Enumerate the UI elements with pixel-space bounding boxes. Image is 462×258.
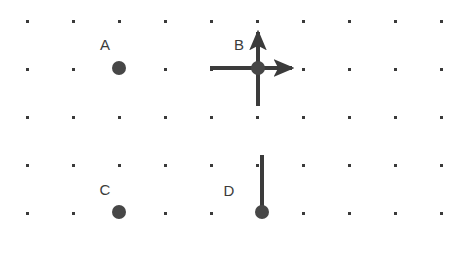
grid-dot <box>72 116 75 119</box>
point-label-d: D <box>224 182 235 199</box>
grid-dot <box>164 116 167 119</box>
grid-dot <box>164 20 167 23</box>
point-marker-b <box>251 61 265 75</box>
grid-dot <box>26 212 29 215</box>
point-marker-c <box>112 205 126 219</box>
point-marker-a <box>112 61 126 75</box>
point-label-a: A <box>100 36 110 53</box>
grid-dot <box>348 212 351 215</box>
grid-dot <box>72 164 75 167</box>
grid-dot <box>118 116 121 119</box>
grid-dot <box>256 116 259 119</box>
vector-diagram: ABCD <box>0 0 462 258</box>
grid-dot <box>118 164 121 167</box>
grid-dot <box>302 164 305 167</box>
point-marker-layer <box>112 61 269 219</box>
grid-dot <box>440 164 443 167</box>
grid-dot <box>440 212 443 215</box>
grid-dot <box>394 212 397 215</box>
grid-dot <box>72 212 75 215</box>
grid-dot <box>164 164 167 167</box>
point-label-b: B <box>234 36 244 53</box>
diagram-canvas: ABCD <box>0 0 462 258</box>
grid-dot <box>118 20 121 23</box>
grid-dot <box>440 116 443 119</box>
grid-dot <box>394 116 397 119</box>
grid-dot <box>164 212 167 215</box>
grid-dot <box>348 68 351 71</box>
point-marker-d <box>255 205 269 219</box>
grid-dot <box>26 20 29 23</box>
grid-dot <box>26 116 29 119</box>
vector-layer <box>210 32 292 212</box>
grid-dot <box>210 164 213 167</box>
grid-dot <box>348 20 351 23</box>
grid-dot <box>72 20 75 23</box>
grid-dot <box>394 68 397 71</box>
grid-dot <box>302 212 305 215</box>
grid-dot <box>164 68 167 71</box>
grid-dot <box>210 212 213 215</box>
grid-dot <box>302 116 305 119</box>
grid-dot <box>302 20 305 23</box>
grid-dot <box>210 116 213 119</box>
grid-dot <box>256 20 259 23</box>
grid-dot <box>440 68 443 71</box>
grid-dot <box>394 164 397 167</box>
grid-dot <box>72 68 75 71</box>
point-label-layer: ABCD <box>100 36 244 199</box>
grid-dot <box>394 20 397 23</box>
grid-dot <box>302 68 305 71</box>
grid-dot <box>256 164 259 167</box>
point-label-c: C <box>100 181 111 198</box>
grid-dot <box>440 20 443 23</box>
grid-dot <box>210 20 213 23</box>
grid-dot <box>348 116 351 119</box>
grid-dot <box>26 68 29 71</box>
grid-dot <box>348 164 351 167</box>
grid-dot <box>26 164 29 167</box>
